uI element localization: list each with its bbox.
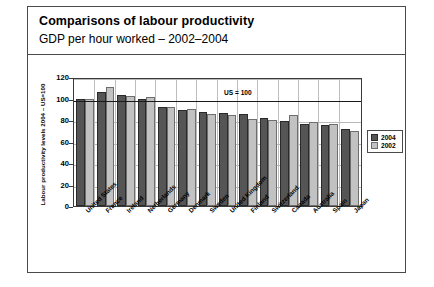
legend-swatch-icon — [371, 134, 378, 141]
bar-2002 — [309, 122, 318, 206]
us-reference-line — [74, 101, 361, 103]
bar-2004 — [138, 99, 147, 207]
us-reference-annotation: US = 100 — [224, 89, 252, 96]
bar-2004 — [341, 129, 350, 206]
bar-2002 — [85, 99, 94, 207]
chart-area: Labour productivity levels 2004 – US=100… — [28, 55, 405, 273]
legend-label: 2004 — [381, 134, 396, 141]
bar-group — [319, 79, 339, 206]
y-tick-label: 0 — [45, 203, 69, 211]
bar-2002 — [146, 97, 155, 206]
bar-group — [136, 79, 156, 206]
bar-2002 — [228, 115, 237, 206]
bar-series-container — [74, 79, 361, 206]
y-tick-label: 80 — [45, 117, 69, 125]
title-bar: Comparisons of labour productivity GDP p… — [28, 7, 405, 55]
bar-2002 — [350, 131, 359, 206]
y-tick-label: 120 — [45, 74, 69, 82]
x-axis-tick-labels: United StatesFranceIrelandNetherlandsGer… — [73, 209, 362, 269]
y-tick-label: 40 — [45, 160, 69, 168]
chart-legend: 2004 2002 — [367, 130, 403, 153]
bar-2002 — [126, 96, 135, 206]
bar-2002 — [268, 120, 277, 206]
bar-group — [340, 79, 360, 206]
y-tick-label: 20 — [45, 182, 69, 190]
legend-label: 2002 — [381, 142, 396, 149]
bar-group — [116, 79, 136, 206]
chart-title: Comparisons of labour productivity — [39, 14, 254, 28]
plot-frame: US = 100 — [73, 78, 362, 207]
bar-group — [299, 79, 319, 206]
legend-item-2004: 2004 — [371, 134, 400, 141]
bar-group — [177, 79, 197, 206]
legend-item-2002: 2002 — [371, 142, 400, 149]
y-tick-label: 100 — [45, 96, 69, 104]
bar-2004 — [117, 95, 126, 206]
y-tick-mark — [69, 207, 73, 208]
legend-swatch-icon — [371, 142, 378, 149]
bar-group — [218, 79, 238, 206]
bar-2004 — [76, 99, 85, 207]
bar-group — [258, 79, 278, 206]
bar-group — [197, 79, 217, 206]
chart-card: Comparisons of labour productivity GDP p… — [27, 6, 406, 273]
y-tick-label: 60 — [45, 139, 69, 147]
bar-group — [75, 79, 95, 206]
chart-subtitle: GDP per hour worked – 2002–2004 — [39, 32, 228, 46]
